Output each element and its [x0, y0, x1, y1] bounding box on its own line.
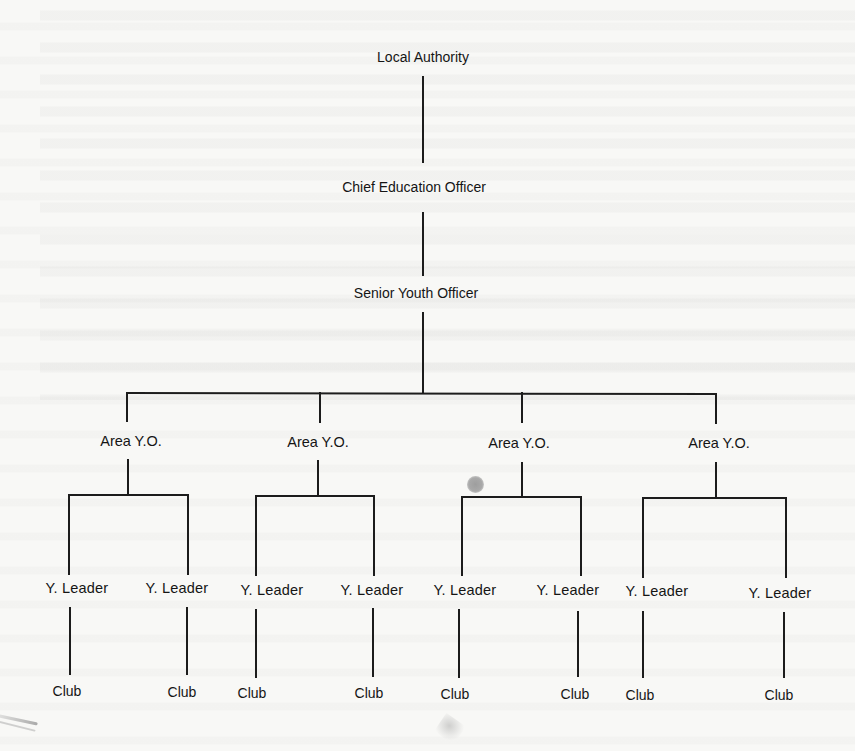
node-y-leader-4: Y. Leader	[341, 582, 404, 598]
node-local-authority: Local Authority	[377, 49, 469, 65]
node-club-5: Club	[441, 686, 470, 702]
node-y-leader-6: Y. Leader	[537, 582, 600, 598]
node-area-yo-3: Area Y.O.	[488, 435, 550, 451]
node-club-4: Club	[355, 685, 384, 701]
node-club-3: Club	[238, 685, 267, 701]
node-senior-youth-officer: Senior Youth Officer	[354, 285, 478, 301]
node-club-2: Club	[168, 684, 197, 700]
node-club-8: Club	[765, 687, 794, 703]
node-y-leader-7: Y. Leader	[626, 583, 689, 599]
node-area-yo-4: Area Y.O.	[688, 435, 750, 451]
org-chart-connectors	[0, 0, 855, 751]
node-y-leader-3: Y. Leader	[241, 582, 304, 598]
node-y-leader-1: Y. Leader	[46, 580, 109, 596]
ink-dot-artifact	[467, 476, 484, 493]
area-bus	[127, 393, 716, 394]
node-y-leader-5: Y. Leader	[434, 582, 497, 598]
node-area-yo-1: Area Y.O.	[100, 433, 162, 449]
node-y-leader-8: Y. Leader	[749, 585, 812, 601]
node-chief-education-officer: Chief Education Officer	[342, 179, 486, 195]
node-area-yo-2: Area Y.O.	[287, 434, 349, 450]
node-y-leader-2: Y. Leader	[146, 580, 209, 596]
node-club-1: Club	[53, 683, 82, 699]
node-club-7: Club	[626, 687, 655, 703]
node-club-6: Club	[561, 686, 590, 702]
